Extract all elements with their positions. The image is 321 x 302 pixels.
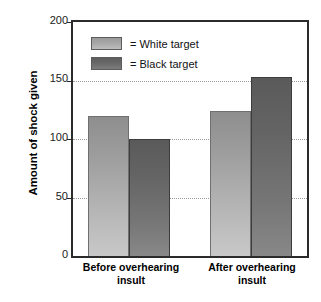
chart-legend: = White target = Black target [91,36,261,76]
bar-after-black-target [251,77,292,256]
bar-before-black-target [129,139,170,256]
tickmark-50 [67,198,73,199]
x-axis-category-labels: Before overhearing insult After overhear… [71,261,309,297]
bar-chart-figure: Amount of shock given 200 150 100 50 0 [0,0,321,302]
tickmark-200 [67,22,73,23]
bar-before-white-target [88,116,129,256]
legend-label-white-target: = White target [130,38,199,50]
y-tick-label-50: 50 [34,191,68,202]
y-tick-label-100: 100 [34,132,68,143]
x-category-before-line1: Before overhearing [71,261,191,274]
y-axis-tick-labels: 200 150 100 50 0 [28,0,68,302]
x-category-after-line2: insult [195,274,309,287]
x-category-after-line1: After overhearing [195,261,309,274]
y-tick-label-0: 0 [34,249,68,260]
legend-swatch-white-icon [91,37,122,50]
legend-label-black-target: = Black target [130,58,198,70]
legend-item-white-target: = White target [91,36,261,51]
y-tick-label-150: 150 [34,73,68,84]
x-category-after: After overhearing insult [195,261,309,286]
tickmark-150 [67,81,73,82]
tickmark-100 [67,139,73,140]
legend-swatch-black-icon [91,57,122,70]
y-tick-label-200: 200 [34,15,68,26]
legend-item-black-target: = Black target [91,56,261,71]
x-category-before-line2: insult [71,274,191,287]
x-category-before: Before overhearing insult [71,261,191,286]
bar-after-white-target [210,111,251,256]
plot-area: = White target = Black target [71,20,309,258]
